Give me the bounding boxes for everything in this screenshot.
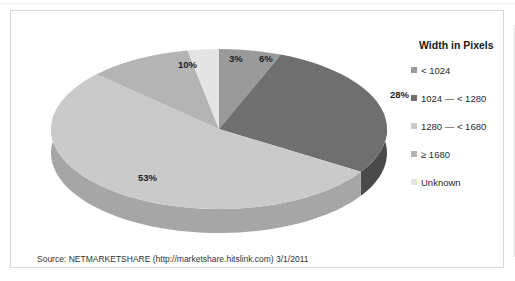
legend-swatch-icon: [411, 95, 417, 101]
top-edge-line: [0, 3, 515, 4]
pie-slice-label-1: 28%: [390, 89, 409, 100]
legend-item-label: < 1024: [421, 65, 450, 76]
legend-items: < 10241024 — < 12801280 — < 1680≥ 1680Un…: [411, 64, 513, 188]
pie-chart-area: 6% 28% 53% 10% 3%: [29, 19, 405, 237]
legend-item-label: 1024 — < 1280: [421, 93, 486, 104]
pie-slice-label-4: 3%: [229, 53, 243, 64]
pie-slice-label-0: 6%: [259, 53, 273, 64]
legend-item-label: Unknown: [421, 177, 461, 188]
legend-item-label: ≥ 1680: [421, 149, 450, 160]
legend-swatch-icon: [411, 179, 417, 185]
legend-item[interactable]: < 1024: [411, 64, 513, 76]
pie-slice-label-3: 10%: [178, 59, 197, 70]
legend-item-label: 1280 — < 1680: [421, 121, 486, 132]
pie-3d-svg: [49, 31, 389, 227]
pie-graphic: 6% 28% 53% 10% 3%: [49, 31, 389, 227]
pie-top-faces: [51, 49, 387, 209]
legend-swatch-icon: [411, 151, 417, 157]
chart-frame: 6% 28% 53% 10% 3% Width in Pixels < 1024…: [10, 10, 504, 268]
legend-title: Width in Pixels: [419, 39, 513, 51]
source-note: Source: NETMARKETSHARE (http://marketsha…: [37, 254, 308, 264]
chart-screenshot: 6% 28% 53% 10% 3% Width in Pixels < 1024…: [0, 0, 515, 281]
legend-item[interactable]: Unknown: [411, 176, 513, 188]
pie-slice-label-2: 53%: [138, 172, 157, 183]
legend-swatch-icon: [411, 123, 417, 129]
chart-legend: Width in Pixels < 10241024 — < 12801280 …: [411, 39, 513, 204]
legend-item[interactable]: ≥ 1680: [411, 148, 513, 160]
legend-item[interactable]: 1024 — < 1280: [411, 92, 513, 104]
legend-swatch-icon: [411, 67, 417, 73]
legend-item[interactable]: 1280 — < 1680: [411, 120, 513, 132]
